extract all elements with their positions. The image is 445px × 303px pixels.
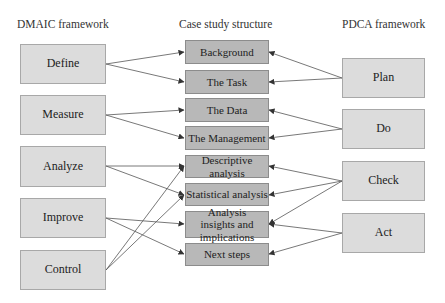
pdca-act: Act: [342, 213, 425, 253]
pdca-plan: Plan: [342, 58, 425, 98]
case-the-management: The Management: [185, 126, 269, 150]
case-next-steps: Next steps: [185, 243, 269, 266]
pdca-do: Do: [342, 109, 425, 149]
dmaic-control: Control: [20, 250, 106, 290]
dmaic-improve: Improve: [20, 198, 106, 238]
dmaic-measure: Measure: [20, 95, 106, 135]
case-the-data: The Data: [185, 98, 269, 122]
case-the-task: The Task: [185, 70, 269, 94]
dmaic-define: Define: [20, 44, 106, 84]
case-statistical-analysis: Statistical analysis: [185, 183, 269, 206]
case-background: Background: [185, 40, 269, 64]
pdca-check: Check: [342, 161, 425, 201]
case-analysis-insights: Analysis insights and implications: [185, 211, 269, 238]
dmaic-analyze: Analyze: [20, 146, 106, 187]
case-descriptive-analysis: Descriptive analysis: [185, 155, 269, 178]
